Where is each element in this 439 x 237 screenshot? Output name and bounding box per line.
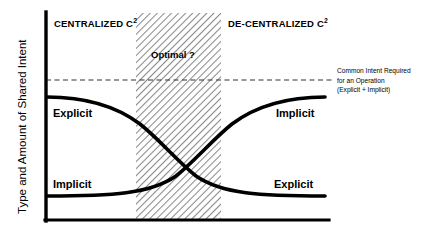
region-label-centralized-superscript: 2 [133,17,137,24]
y-axis-title: Type and Amount of Shared Intent [16,39,28,214]
common-intent-note-line-2: for an Operation [337,76,437,86]
curve-label-implicit-right: Implicit [276,107,315,119]
curve-label-implicit-left: Implicit [53,178,92,190]
common-intent-note-line-1: Common Intent Required [337,66,437,76]
region-label-centralized-text: CENTRALIZED C [54,18,133,29]
shared-intent-diagram: Type and Amount of Shared Intent CENTRAL… [0,0,439,237]
region-label-decentralized: DE-CENTRALIZED C2 [228,18,328,29]
region-label-decentralized-superscript: 2 [324,17,328,24]
curve-label-explicit-right: Explicit [274,178,313,190]
curve-label-explicit-left: Explicit [53,107,92,119]
region-label-decentralized-text: DE-CENTRALIZED C [228,18,324,29]
region-label-centralized: CENTRALIZED C2 [54,18,137,29]
optimal-band-label: Optimal ? [151,49,195,60]
common-intent-note: Common Intent Required for an Operation … [337,66,437,95]
common-intent-note-line-3: (Explicit + Implicit) [337,85,437,95]
